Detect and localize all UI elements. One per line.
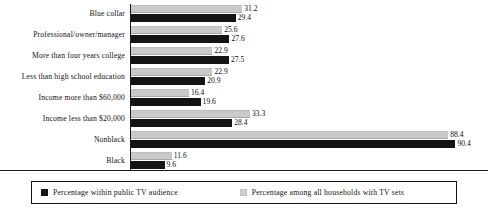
bar-group: 22.9 27.5 [130,46,488,67]
bar-line-dark: 19.6 [130,98,488,106]
chart-row: Income more than $60,000 16.4 19.6 [0,88,488,109]
legend-swatch-light-icon [240,189,247,196]
bar-line-light: 33.3 [130,110,488,118]
bar-dark [130,35,229,43]
bar-line-dark: 20.9 [130,77,488,85]
bar-line-dark: 29.4 [130,14,488,22]
chart-row: Income less than $20,000 33.3 28.4 [0,109,488,130]
chart-legend: Percentage within public TV audience Per… [31,181,457,204]
chart-row: Less than high school education 22.9 20.… [0,67,488,88]
bar-light [130,26,222,34]
bar-value-light: 33.3 [252,110,265,118]
bar-group: 88.4 90.4 [130,130,488,151]
category-label: Less than high school education [0,73,130,81]
category-label: Professional/owner/manager [0,31,130,39]
bar-value-dark: 19.6 [203,98,216,106]
category-label: Black [0,157,130,165]
bar-value-dark: 90.4 [457,140,470,148]
category-label: More than four years college [0,52,130,60]
bar-dark [130,14,236,22]
bar-group: 22.9 20.9 [130,67,488,88]
bar-group: 11.6 9.6 [130,151,488,172]
y-axis-line [130,4,131,170]
bar-line-dark: 90.4 [130,140,488,148]
bar-dark [130,119,232,127]
bar-group: 25.6 27.6 [130,25,488,46]
bar-line-light: 31.2 [130,5,488,13]
chart-row: More than four years college 22.9 27.5 [0,46,488,67]
bar-value-light: 25.6 [224,26,237,34]
bar-group: 31.2 29.4 [130,4,488,25]
plot-area: Blue collar 31.2 29.4 Professional/owner… [0,4,488,172]
bar-dark [130,161,165,169]
bar-group: 33.3 28.4 [130,109,488,130]
bar-value-light: 31.2 [244,5,257,13]
bar-dark [130,56,229,64]
bar-light [130,110,250,118]
category-label: Income more than $60,000 [0,94,130,102]
legend-item-all-households: Percentage among all households with TV … [240,188,404,197]
legend-item-public-tv-audience: Percentage within public TV audience [41,188,178,197]
bar-light [130,89,189,97]
bar-light [130,5,242,13]
bar-line-dark: 27.5 [130,56,488,64]
bar-light [130,47,212,55]
category-label: Income less than $20,000 [0,115,130,123]
bar-group: 16.4 19.6 [130,88,488,109]
bar-value-dark: 9.6 [167,161,177,169]
bar-dark [130,77,205,85]
chart-row: Nonblack 88.4 90.4 [0,130,488,151]
bar-value-dark: 27.6 [231,35,244,43]
bar-line-light: 22.9 [130,47,488,55]
bar-dark [130,140,455,148]
bar-value-light: 88.4 [450,131,463,139]
bar-line-dark: 28.4 [130,119,488,127]
bar-light [130,68,212,76]
bar-value-dark: 27.5 [231,56,244,64]
chart-row: Professional/owner/manager 25.6 27.6 [0,25,488,46]
bar-light [130,152,172,160]
bar-dark [130,98,201,106]
legend-label: Percentage among all households with TV … [252,188,404,197]
bar-value-dark: 29.4 [238,14,251,22]
bar-line-light: 22.9 [130,68,488,76]
bar-value-dark: 20.9 [207,77,220,85]
bar-light [130,131,448,139]
bar-chart: Blue collar 31.2 29.4 Professional/owner… [0,0,488,210]
chart-row: Blue collar 31.2 29.4 [0,4,488,25]
bar-value-light: 16.4 [191,89,204,97]
bar-line-dark: 9.6 [130,161,488,169]
bar-line-light: 25.6 [130,26,488,34]
legend-swatch-dark-icon [41,189,48,196]
bar-line-light: 11.6 [130,152,488,160]
legend-label: Percentage within public TV audience [53,188,178,197]
x-axis-line [0,170,488,171]
category-label: Nonblack [0,136,130,144]
category-label: Blue collar [0,10,130,18]
bar-value-light: 11.6 [174,152,187,160]
bar-line-light: 16.4 [130,89,488,97]
bar-line-light: 88.4 [130,131,488,139]
bar-value-dark: 28.4 [234,119,247,127]
bar-line-dark: 27.6 [130,35,488,43]
chart-row: Black 11.6 9.6 [0,151,488,172]
bar-value-light: 22.9 [214,68,227,76]
bar-value-light: 22.9 [214,47,227,55]
